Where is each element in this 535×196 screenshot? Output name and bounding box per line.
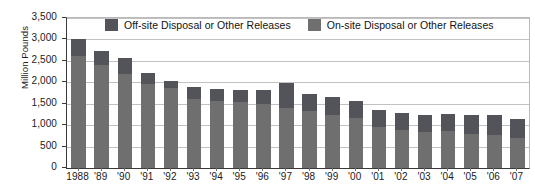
bar-stack [372, 18, 387, 168]
bar-segment-off-site [233, 90, 248, 102]
bar-stack [164, 18, 179, 168]
on-site-swatch-icon [308, 19, 321, 31]
bar-segment-off-site [395, 113, 410, 130]
bar-segment-off-site [279, 83, 294, 108]
bar-segment-on-site [141, 84, 156, 168]
bar-stack [141, 18, 156, 168]
legend-label-on-site: On-site Disposal or Other Releases [327, 19, 494, 31]
bar-stack [256, 18, 271, 168]
gridline [67, 147, 529, 148]
bar-stack [395, 18, 410, 168]
bar-stack [302, 18, 317, 168]
bar-stack [94, 18, 109, 168]
gridline [67, 39, 529, 40]
bar-stack [118, 18, 133, 168]
gridline [67, 104, 529, 105]
bar-segment-off-site [372, 110, 387, 127]
bar-segment-on-site [233, 102, 248, 168]
off-site-swatch-icon [105, 19, 118, 31]
y-axis-tick-label: 500 [0, 140, 57, 151]
y-axis-tick-label: 3,500 [0, 11, 57, 22]
bar-stack [349, 18, 364, 168]
bar-segment-off-site [94, 51, 109, 65]
y-axis-tick-label: 3,000 [0, 32, 57, 43]
bar-segment-on-site [302, 111, 317, 168]
bar-segment-off-site [71, 39, 86, 55]
x-axis-tick-label: '07 [496, 171, 535, 182]
bar-segment-off-site [418, 115, 433, 132]
bar-segment-off-site [210, 89, 225, 101]
y-axis-tick-label: 2,500 [0, 54, 57, 65]
bar-stack [210, 18, 225, 168]
bar-segment-off-site [141, 73, 156, 84]
bar-stack [279, 18, 294, 168]
bar-segment-off-site [302, 94, 317, 111]
bar-stack [464, 18, 479, 168]
bar-segment-on-site [372, 127, 387, 168]
gridline [67, 61, 529, 62]
bar-segment-on-site [418, 132, 433, 168]
bar-stack [187, 18, 202, 168]
bar-segment-on-site [164, 88, 179, 168]
bar-segment-on-site [256, 104, 271, 168]
bar-segment-on-site [210, 101, 225, 168]
plot-area [66, 17, 530, 169]
bar-stack [441, 18, 456, 168]
bar-segment-off-site [325, 97, 340, 115]
y-axis-tick-label: 2,000 [0, 75, 57, 86]
bar-stack [71, 18, 86, 168]
y-axis-tick-label: 0 [0, 161, 57, 172]
bar-segment-off-site [118, 58, 133, 74]
bar-stack [510, 18, 525, 168]
bar-segment-off-site [487, 115, 502, 135]
bar-segment-on-site [279, 108, 294, 168]
bar-stack [487, 18, 502, 168]
bar-segment-on-site [349, 118, 364, 168]
y-axis-tick-label: 1,000 [0, 118, 57, 129]
chart-legend: Off-site Disposal or Other Releases On-s… [105, 19, 494, 31]
bar-segment-on-site [395, 130, 410, 168]
bar-segment-off-site [164, 81, 179, 88]
bar-segment-on-site [118, 74, 133, 168]
bar-segment-off-site [187, 87, 202, 98]
bar-segment-off-site [349, 101, 364, 119]
gridline [67, 82, 529, 83]
bar-segment-on-site [441, 131, 456, 168]
bar-stack [325, 18, 340, 168]
y-axis-tick-label: 1,500 [0, 97, 57, 108]
bar-segment-on-site [71, 56, 86, 168]
bar-segment-off-site [441, 114, 456, 131]
bar-segment-on-site [187, 99, 202, 168]
stacked-bar-chart: Million Pounds 05001,0001,5002,0002,5003… [0, 0, 535, 196]
bar-segment-on-site [510, 138, 525, 168]
legend-label-off-site: Off-site Disposal or Other Releases [124, 19, 291, 31]
bar-stack [233, 18, 248, 168]
bar-segment-off-site [510, 119, 525, 139]
bar-stack [418, 18, 433, 168]
bar-segment-on-site [487, 135, 502, 168]
bar-segment-on-site [325, 115, 340, 168]
gridline [67, 125, 529, 126]
bar-segment-on-site [464, 134, 479, 168]
legend-item-on-site: On-site Disposal or Other Releases [308, 19, 494, 31]
bar-segment-off-site [464, 115, 479, 134]
bar-segment-on-site [94, 65, 109, 168]
legend-item-off-site: Off-site Disposal or Other Releases [105, 19, 291, 31]
bar-segment-off-site [256, 90, 271, 103]
